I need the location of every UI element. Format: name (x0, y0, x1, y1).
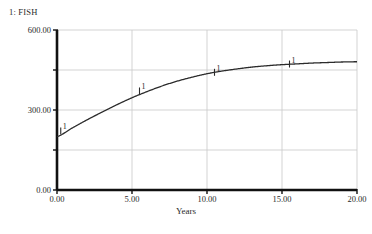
series-marker-label: 1 (142, 83, 146, 91)
x-tick-label: 10.00 (187, 194, 227, 204)
x-tick-label: 5.00 (112, 194, 152, 204)
x-tick-label: 15.00 (262, 194, 302, 204)
y-tick-label: 600.00 (3, 25, 51, 35)
fish-population-chart: 1: FISH 0.00300.00600.00 0.005.0010.0015… (0, 0, 372, 234)
series-marker-label: 1 (292, 57, 296, 65)
y-tick-label: 300.00 (3, 105, 51, 115)
series-markers (61, 61, 290, 135)
series-marker-label: 1 (63, 123, 67, 131)
series-marker-label: 1 (217, 65, 221, 73)
gridlines (57, 30, 357, 190)
x-axis-title: Years (0, 206, 372, 216)
x-tick-label: 20.00 (337, 194, 372, 204)
x-tick-label: 0.00 (37, 194, 77, 204)
tick-marks (53, 30, 357, 194)
